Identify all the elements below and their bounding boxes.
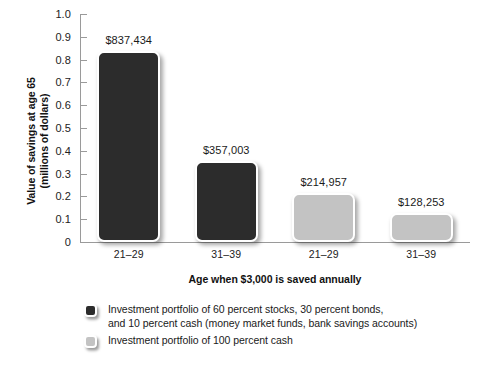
x-axis-category-label: 21–29 [84,248,174,260]
bar-chart: Value of savings at age 65 (millions of … [0,0,489,367]
bar-value-label: $357,003 [181,144,271,156]
legend: Investment portfolio of 60 percent stock… [84,302,484,351]
bar [292,193,355,242]
y-axis-title-line2: (millions of dollars) [38,41,51,241]
x-axis-line [80,242,470,243]
y-axis-title: Value of savings at age 65 (millions of … [25,41,51,241]
x-axis-category-label: 31–39 [376,248,466,260]
y-axis-tick-mark [81,60,87,61]
legend-label-line1: Investment portfolio of 60 percent stock… [108,302,417,316]
legend-label-line1: Investment portfolio of 100 percent cash [108,333,293,347]
bar-value-label: $128,253 [376,196,466,208]
legend-swatch-dark-icon [84,304,97,317]
bar [195,161,258,242]
bar [97,51,160,242]
bar-value-label: $837,434 [84,34,174,46]
y-axis-tick-mark [81,151,87,152]
y-axis-title-line1: Value of savings at age 65 [25,41,38,241]
legend-label: Investment portfolio of 100 percent cash [108,333,293,347]
x-axis-category-label: 21–29 [279,248,369,260]
legend-item: Investment portfolio of 60 percent stock… [84,302,484,330]
plot-area: 1.00.90.80.70.60.50.40.30.20.10 $837,434… [80,14,470,242]
bar-value-label: $214,957 [279,176,369,188]
y-axis-tick-label: 1.0 [55,8,71,20]
y-axis-tick-mark [81,14,87,15]
y-axis-tick-label: 0.8 [55,54,71,66]
legend-item: Investment portfolio of 100 percent cash [84,333,484,348]
y-axis-tick-label: 0.2 [55,190,71,202]
y-axis-tick-mark [81,128,87,129]
y-axis-tick-label: 0.6 [55,99,71,111]
x-axis-category-label: 31–39 [181,248,271,260]
y-axis-tick-mark [81,219,87,220]
legend-label-line2: and 10 percent cash (money market funds,… [108,316,417,330]
x-axis-title: Age when $3,000 is saved annually [80,273,470,285]
legend-label: Investment portfolio of 60 percent stock… [108,302,417,330]
y-axis-tick-label: 0.3 [55,168,71,180]
y-axis-tick-label: 0.9 [55,31,71,43]
y-axis-tick-label: 0.5 [55,122,71,134]
y-axis-tick-label: 0.1 [55,213,71,225]
y-axis-tick-mark [81,174,87,175]
y-axis-tick-mark [81,242,87,243]
legend-swatch-light-icon [84,335,97,348]
y-axis-tick-mark [81,105,87,106]
y-axis-tick-mark [81,82,87,83]
y-axis-tick-label: 0.4 [55,145,71,157]
y-axis-tick-mark [81,196,87,197]
bar [390,213,453,242]
y-axis-tick-label: 0.7 [55,76,71,88]
y-axis-tick-label: 0 [65,236,71,248]
